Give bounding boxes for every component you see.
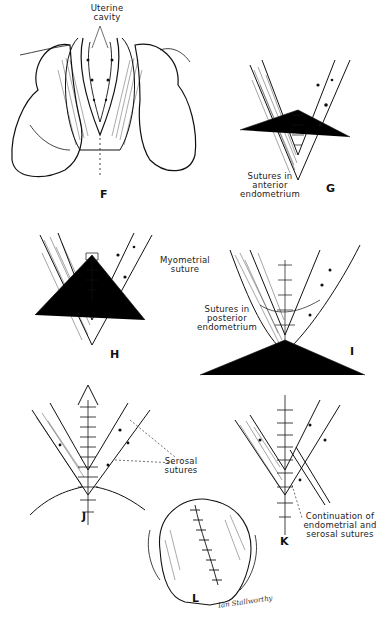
myometrial-suture-illustration [30, 225, 200, 365]
reconstructed-uterus-illustration [140, 490, 260, 630]
label-line: sutures [160, 466, 202, 475]
label-serosal-sutures: Serosal sutures [160, 457, 202, 475]
label-sutures-anterior-endometrium: Sutures in anterior endometrium [235, 172, 305, 199]
panel-h: H [30, 225, 200, 365]
label-line: cavity [82, 13, 132, 22]
panel-letter-l: L [192, 592, 199, 605]
uterus-opened-illustration [0, 0, 200, 205]
panel-letter-f: F [100, 188, 108, 201]
label-line: endometrium [195, 323, 259, 332]
panel-letter-g: G [326, 182, 335, 195]
panel-letter-h: H [110, 348, 119, 361]
label-sutures-posterior-endometrium: Sutures in posterior endometrium [195, 305, 259, 332]
panel-letter-i: I [350, 345, 354, 358]
panel-l: L [140, 490, 260, 630]
panel-letter-j: J [82, 510, 86, 523]
label-line: endometrium [235, 190, 305, 199]
label-continuation-endometrial-serosal-sutures: Continuation of endometrial and serosal … [298, 512, 382, 539]
label-line: serosal sutures [298, 530, 382, 539]
panel-g: Sutures in anterior endometrium G [240, 55, 390, 215]
label-uterine-cavity: Uterine cavity [82, 4, 132, 22]
label-line: suture [155, 265, 215, 274]
panel-f: Uterine cavity F [0, 0, 200, 205]
panel-letter-k: K [280, 535, 289, 548]
label-myometrial-suture: Myometrial suture [155, 256, 215, 274]
